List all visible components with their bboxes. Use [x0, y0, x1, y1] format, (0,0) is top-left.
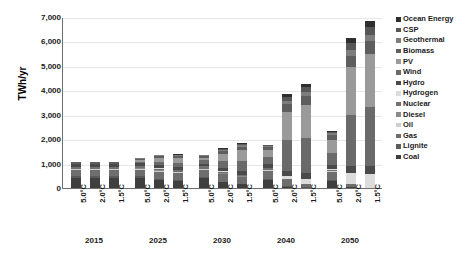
bar-group-2015	[63, 18, 127, 188]
x-axis-group-label-2040: 2040	[254, 236, 318, 245]
legend-label: Gas	[403, 132, 417, 140]
legend-label: Lignite	[403, 142, 428, 150]
y-axis-tick-label: 5,000	[17, 63, 61, 71]
bar-segment-hydrogen	[346, 173, 356, 183]
bar-2030-2.0°C[interactable]	[218, 148, 228, 188]
legend-label: Coal	[403, 153, 419, 161]
bar-2030-5.0°C[interactable]	[199, 155, 209, 188]
bar-2050-1.5°C[interactable]	[365, 21, 375, 188]
bar-2040-1.5°C[interactable]	[301, 84, 311, 188]
x-axis-group-label-2050: 2050	[318, 236, 382, 245]
legend-item-coal[interactable]: Coal	[396, 152, 470, 163]
bar-segment-pv	[365, 54, 375, 107]
legend-item-ocean-energy[interactable]: Ocean Energy	[396, 14, 470, 25]
bar-segment-wind	[365, 107, 375, 166]
legend-label: Geothermal	[403, 36, 445, 44]
legend-swatch-icon	[396, 134, 401, 139]
bar-segment-wind	[346, 115, 356, 166]
legend-label: Biomass	[403, 47, 434, 55]
y-axis-tick-label: 6,000	[17, 38, 61, 46]
legend-item-csp[interactable]: CSP	[396, 25, 470, 36]
legend-item-oil[interactable]: Oil	[396, 120, 470, 131]
bar-segment-biomass	[301, 96, 311, 105]
bar-group-2030	[191, 18, 255, 188]
x-axis-tick-2015-2.0°C: 2.0°C	[98, 184, 107, 224]
bar-2040-5.0°C[interactable]	[263, 145, 273, 189]
bar-segment-pv	[346, 67, 356, 115]
legend-swatch-icon	[396, 123, 401, 128]
bar-2030-1.5°C[interactable]	[237, 143, 247, 188]
bar-segment-pv	[301, 105, 311, 138]
legend-swatch-icon	[396, 144, 401, 149]
y-axis-tick-label: 1,000	[17, 161, 61, 169]
y-axis-tick-label: 7,000	[17, 14, 61, 22]
x-axis-tick-2040-1.5°C: 1.5°C	[309, 184, 318, 224]
legend-swatch-icon	[396, 155, 401, 160]
legend-item-pv[interactable]: PV	[396, 56, 470, 67]
legend-label: Ocean Energy	[403, 15, 453, 23]
legend-item-biomass[interactable]: Biomass	[396, 46, 470, 57]
bar-2050-2.0°C[interactable]	[346, 38, 356, 188]
chart-container: TWh/yr 01,0002,0003,0004,0005,0006,0007,…	[0, 0, 470, 259]
legend-item-wind[interactable]: Wind	[396, 67, 470, 78]
bar-segment-hydro	[365, 166, 375, 174]
x-axis-group-label-2015: 2015	[62, 236, 126, 245]
x-axis-group-label-2025: 2025	[126, 236, 190, 245]
bar-segment-biomass	[282, 104, 292, 112]
legend-swatch-icon	[396, 17, 401, 22]
legend-item-lignite[interactable]: Lignite	[396, 141, 470, 152]
bar-2025-2.0°C[interactable]	[154, 155, 164, 188]
bar-segment-pv	[327, 140, 337, 153]
x-axis-tick-2025-5.0°C: 5.0°C	[143, 184, 152, 224]
bar-segment-gas	[154, 172, 164, 179]
legend-swatch-icon	[396, 49, 401, 54]
x-axis-tick-2030-1.5°C: 1.5°C	[245, 184, 254, 224]
x-axis-tick-2050-5.0°C: 5.0°C	[335, 184, 344, 224]
bar-segment-csp	[365, 27, 375, 35]
bar-group-2040	[255, 18, 319, 188]
legend-label: Wind	[403, 68, 421, 76]
bar-segment-hydro	[346, 166, 356, 173]
legend-item-nuclear[interactable]: Nuclear	[396, 99, 470, 110]
bar-segment-wind	[218, 161, 228, 168]
bar-segment-gas	[263, 171, 273, 179]
bar-segment-pv	[218, 154, 228, 161]
legend-item-hydrogen[interactable]: Hydrogen	[396, 88, 470, 99]
x-axis-tick-2030-5.0°C: 5.0°C	[207, 184, 216, 224]
bar-segment-wind	[301, 138, 311, 173]
bar-segment-gas	[199, 170, 209, 177]
legend-swatch-icon	[396, 81, 401, 86]
legend-swatch-icon	[396, 112, 401, 117]
x-axis-tick-2040-2.0°C: 2.0°C	[290, 184, 299, 224]
x-axis-tick-2025-2.0°C: 2.0°C	[162, 184, 171, 224]
legend-item-diesel[interactable]: Diesel	[396, 109, 470, 120]
legend-item-hydro[interactable]: Hydro	[396, 78, 470, 89]
bar-segment-pv	[282, 112, 292, 141]
bar-2040-2.0°C[interactable]	[282, 94, 292, 188]
x-axis-tick-2015-5.0°C: 5.0°C	[79, 184, 88, 224]
legend-swatch-icon	[396, 28, 401, 33]
bar-segment-biomass	[346, 56, 356, 67]
bar-segment-pv	[263, 150, 273, 157]
bar-group-2025	[127, 18, 191, 188]
legend-label: Oil	[403, 121, 413, 129]
x-axis-tick-2040-5.0°C: 5.0°C	[271, 184, 280, 224]
bar-segment-gas	[218, 174, 228, 181]
bar-2025-1.5°C[interactable]	[173, 154, 183, 188]
bar-segment-biomass	[365, 41, 375, 53]
x-axis-tick-2050-1.5°C: 1.5°C	[373, 184, 382, 224]
bar-segment-wind	[327, 153, 337, 165]
y-axis-ticks: 01,0002,0003,0004,0005,0006,0007,000	[0, 0, 61, 259]
bar-segment-wind	[237, 161, 247, 171]
y-axis-tick-label: 3,000	[17, 112, 61, 120]
x-axis-labels: 5.0°C2.0°C1.5°C20155.0°C2.0°C1.5°C20255.…	[62, 190, 382, 259]
bar-segment-wind	[263, 157, 273, 164]
bar-2050-5.0°C[interactable]	[327, 131, 337, 188]
x-axis-tick-2030-2.0°C: 2.0°C	[226, 184, 235, 224]
bar-segment-gas	[237, 177, 247, 184]
bar-segment-gas	[135, 170, 145, 177]
bar-segment-gas	[327, 172, 337, 181]
bar-segment-geothermal	[365, 35, 375, 42]
legend-item-geothermal[interactable]: Geothermal	[396, 35, 470, 46]
legend-item-gas[interactable]: Gas	[396, 131, 470, 142]
